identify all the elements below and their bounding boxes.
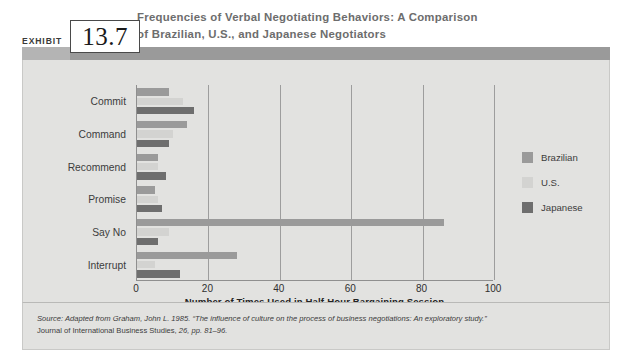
x-tick-60: 60 <box>345 283 356 294</box>
bar-recommend-brazilian <box>137 154 158 161</box>
exhibit-label: EXHIBIT <box>22 36 62 46</box>
source-line1: Source: Adapted from Graham, John L. 198… <box>37 314 487 323</box>
category-axis-labels: CommitCommandRecommendPromiseSay NoInter… <box>40 85 132 281</box>
chart-legend: BrazilianU.S.Japanese <box>522 152 583 227</box>
x-tick-40: 40 <box>273 283 284 294</box>
plot-area <box>136 85 493 281</box>
bar-say-no-brazilian <box>137 219 444 226</box>
bar-say-no-us <box>137 228 169 235</box>
bar-command-us <box>137 130 173 137</box>
category-label-say-no: Say No <box>92 227 126 238</box>
source-line2-journal: Journal of International Business Studie… <box>37 326 177 335</box>
category-label-promise: Promise <box>88 194 126 205</box>
x-tick-20: 20 <box>202 283 213 294</box>
legend-swatch-brazilian <box>522 152 533 163</box>
x-tick-80: 80 <box>416 283 427 294</box>
header-band-accent <box>22 47 70 60</box>
exhibit-number: 13.7 <box>70 20 140 53</box>
legend-label-brazilian: Brazilian <box>541 152 578 163</box>
legend-swatch-us <box>522 177 533 188</box>
legend-item-japanese: Japanese <box>522 202 583 213</box>
category-label-recommend: Recommend <box>68 161 126 172</box>
bar-interrupt-us <box>137 261 155 268</box>
category-label-interrupt: Interrupt <box>88 259 126 270</box>
x-tick-0: 0 <box>133 283 139 294</box>
bar-command-japanese <box>137 140 169 147</box>
legend-label-us: U.S. <box>541 177 560 188</box>
bar-say-no-japanese <box>137 238 158 245</box>
bar-command-brazilian <box>137 121 187 128</box>
bar-promise-us <box>137 196 158 203</box>
exhibit-figure: Frequencies of Verbal Negotiating Behavi… <box>0 0 632 361</box>
gridline-40 <box>280 85 281 280</box>
category-label-command: Command <box>79 129 127 140</box>
gridline-80 <box>423 85 424 280</box>
source-line2-pages: 26, pp. 81–96. <box>177 326 228 335</box>
gridline-100 <box>494 85 495 280</box>
exhibit-title: Frequencies of Verbal Negotiating Behavi… <box>137 9 517 42</box>
bar-commit-japanese <box>137 107 194 114</box>
source-note: Source: Adapted from Graham, John L. 198… <box>37 313 597 337</box>
legend-item-brazilian: Brazilian <box>522 152 583 163</box>
legend-label-japanese: Japanese <box>541 202 583 213</box>
exhibit-title-line1: Frequencies of Verbal Negotiating Behavi… <box>137 9 517 26</box>
source-panel: Source: Adapted from Graham, John L. 198… <box>22 302 610 350</box>
exhibit-title-line2: of Brazilian, U.S., and Japanese Negotia… <box>137 26 517 43</box>
bar-commit-brazilian <box>137 88 169 95</box>
bar-promise-japanese <box>137 205 162 212</box>
bar-interrupt-brazilian <box>137 252 237 259</box>
bar-commit-us <box>137 98 183 105</box>
category-label-commit: Commit <box>91 96 126 107</box>
bar-promise-brazilian <box>137 186 155 193</box>
bar-recommend-japanese <box>137 172 166 179</box>
gridline-60 <box>351 85 352 280</box>
legend-item-us: U.S. <box>522 177 583 188</box>
legend-swatch-japanese <box>522 202 533 213</box>
bar-recommend-us <box>137 163 158 170</box>
x-tick-100: 100 <box>485 283 502 294</box>
bar-interrupt-japanese <box>137 270 180 277</box>
